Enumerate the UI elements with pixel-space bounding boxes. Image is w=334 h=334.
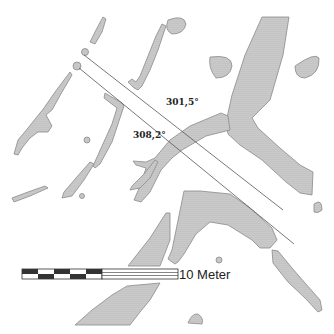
scale-bar: 10 Meter <box>22 267 231 282</box>
lower-left-thin-feature-1 <box>62 162 94 198</box>
post-hole-5 <box>216 257 222 263</box>
blob-top-center <box>210 56 232 78</box>
mid-feature <box>128 213 170 266</box>
right-of-top-thin-feature <box>128 24 166 90</box>
blob-top-right <box>295 56 319 78</box>
lower-feature <box>168 191 277 264</box>
left-curved-feature <box>14 72 72 155</box>
post-hole-4 <box>80 194 85 199</box>
angle-label-301: 301,5° <box>166 97 199 108</box>
lower-left-thin-feature-2 <box>12 186 48 202</box>
scale-label: 10 Meter <box>179 267 231 282</box>
post-hole-1 <box>82 49 89 56</box>
right-thin-feature <box>272 250 322 312</box>
main-trench <box>226 17 313 195</box>
center-thin-feature <box>93 93 124 168</box>
upper-thin-feature <box>90 17 106 44</box>
site-plan: 301,5° 308,2° 10 Meter <box>0 0 334 334</box>
blob-right-small <box>314 202 322 213</box>
post-hole-3 <box>84 137 90 143</box>
blob-top-left <box>167 18 186 34</box>
bottom-feature <box>75 283 160 325</box>
angle-label-308: 308,2° <box>133 130 166 141</box>
blob-bottom-right <box>188 314 203 324</box>
